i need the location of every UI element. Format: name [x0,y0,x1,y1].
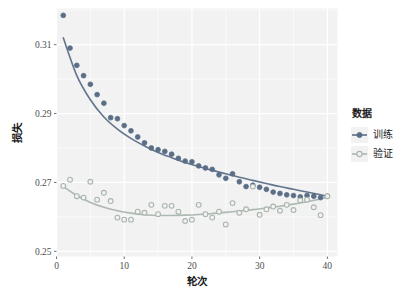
y-axis: 0.250.270.290.31 [35,40,57,257]
legend-key-marker [357,132,362,137]
data-point [176,209,181,214]
data-point [74,194,79,199]
data-point [257,185,262,190]
data-point [318,195,323,200]
data-point [203,166,208,171]
data-point [271,204,276,209]
data-point [223,176,228,181]
data-point [74,63,79,68]
data-point [271,190,276,195]
legend-item-0[interactable]: 训练 [351,127,393,143]
data-point [217,172,222,177]
data-point [108,199,113,204]
y-tick-label: 0.31 [35,40,52,50]
x-tick-label: 20 [187,261,197,271]
x-tick-label: 40 [323,261,333,271]
data-point [318,213,323,218]
data-point [210,215,215,220]
data-point [210,167,215,172]
data-point [291,193,296,198]
data-point [305,197,310,202]
data-point [142,210,147,215]
data-point [129,217,134,222]
data-point [68,46,73,51]
data-point [149,202,154,207]
data-point [102,101,107,106]
x-axis-title: 轮次 [187,275,208,287]
plot-panel-background [57,9,338,257]
data-point [88,179,93,184]
data-point [183,159,188,164]
data-point [169,152,174,157]
data-point [217,209,222,214]
data-point [156,147,161,152]
data-point [81,73,86,78]
data-point [190,217,195,222]
data-point [95,92,100,97]
data-point [244,207,249,212]
data-point [61,13,66,18]
data-point [230,201,235,206]
data-point [264,207,269,212]
data-point [230,171,235,176]
data-point [311,205,316,210]
data-point [237,210,242,215]
data-point [190,159,195,164]
data-point [95,197,100,202]
legend-item-1[interactable]: 验证 [351,146,393,162]
data-point [156,212,161,217]
data-point [108,115,113,120]
data-point [88,82,93,87]
legend-item-label: 训练 [373,128,393,140]
data-point [162,203,167,208]
data-point [278,191,283,196]
data-point [115,116,120,121]
data-point [81,195,86,200]
data-point [135,135,140,140]
x-axis: 010203040 [54,257,332,272]
y-tick-label: 0.27 [35,178,52,188]
y-axis-title: 损失 [11,122,23,143]
y-tick-label: 0.25 [35,247,52,257]
x-tick-label: 0 [54,261,59,271]
data-point [250,184,255,189]
legend-key-marker [357,151,362,156]
data-point [291,208,296,213]
data-point [102,190,107,195]
data-point [135,209,140,214]
data-point [264,187,269,192]
data-point [257,212,262,217]
legend: 数据训练验证 [351,107,393,162]
data-point [122,217,127,222]
data-point [284,202,289,207]
legend-title: 数据 [352,107,372,119]
x-tick-label: 30 [255,261,265,271]
data-point [196,164,201,169]
data-point [61,183,66,188]
data-point [237,179,242,184]
data-point [284,192,289,197]
data-point [298,198,303,203]
data-point [311,194,316,199]
data-point [149,146,154,151]
x-tick-label: 10 [119,261,129,271]
data-point [223,222,228,227]
legend-item-label: 验证 [373,147,393,159]
data-point [115,215,120,220]
data-point [176,156,181,161]
data-point [162,149,167,154]
y-tick-label: 0.29 [35,109,52,119]
data-point [68,177,73,182]
data-point [169,203,174,208]
data-point [196,202,201,207]
data-point [325,194,330,199]
data-point [244,184,249,189]
data-point [122,123,127,128]
data-point [278,208,283,213]
loss-curve-chart: 0.250.270.290.31010203040轮次损失数据训练验证 [0,0,413,298]
data-point [142,140,147,145]
data-point [183,219,188,224]
data-point [129,128,134,133]
chart-canvas: 0.250.270.290.31010203040轮次损失数据训练验证 [0,0,413,298]
data-point [203,212,208,217]
